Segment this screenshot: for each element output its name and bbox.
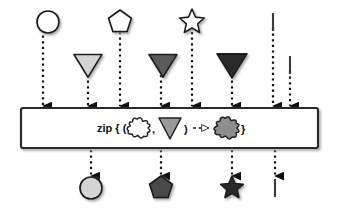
event-pentagon-dark: [150, 176, 173, 198]
event-circle-white: [37, 11, 59, 33]
diagram-canvas: zip { ( , ) }: [0, 0, 339, 210]
event-star-white: [180, 9, 205, 33]
event-shapes-layer: [37, 9, 290, 199]
dashed-connectors-layer: [43, 28, 290, 176]
zip-label-close-paren: ): [184, 123, 188, 135]
operator-box-layer: zip { ( , ) }: [21, 108, 318, 148]
event-circle-lightgray: [80, 177, 102, 199]
zip-label-close-brace: }: [241, 123, 246, 135]
zip-label-comma: ,: [152, 123, 155, 135]
diagram-svg: zip { ( , ) }: [0, 0, 339, 210]
event-pentagon-white: [109, 10, 132, 32]
event-star-dark: [221, 176, 244, 198]
zip-label-prefix: zip { (: [97, 122, 127, 134]
